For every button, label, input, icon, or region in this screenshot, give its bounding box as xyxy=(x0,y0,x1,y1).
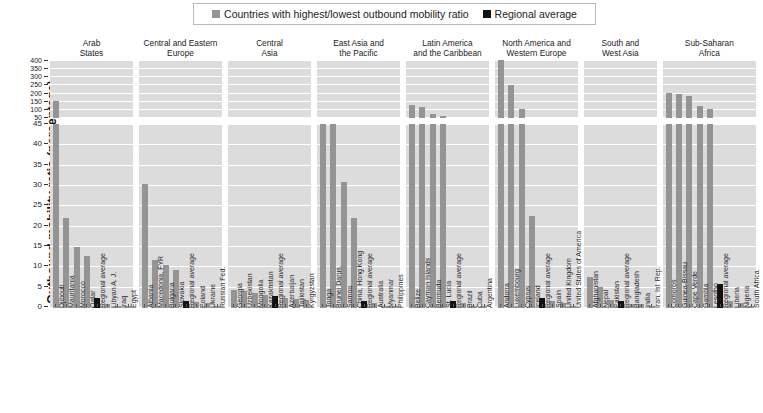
y-tick-label: 250 xyxy=(20,81,48,88)
bar-slot xyxy=(349,60,359,118)
bar-country xyxy=(686,96,692,118)
bar-country xyxy=(707,109,713,118)
bar-country xyxy=(498,124,504,308)
x-axis-label: Belize xyxy=(414,289,421,308)
bar-slot xyxy=(123,124,133,308)
bar-slot xyxy=(301,60,311,118)
bar-slot xyxy=(735,60,745,118)
x-axis-tick xyxy=(730,304,731,307)
x-axis-label: St. Lucia xyxy=(445,281,452,308)
bar-slot xyxy=(339,60,349,118)
y-tick-label: 150 xyxy=(20,98,48,105)
bar-slot xyxy=(92,60,102,118)
group-panel-top xyxy=(584,60,657,118)
bar-container xyxy=(495,60,578,118)
x-axis-labels: DjiboutiMauritaniaMoroccoQatarRegional a… xyxy=(50,308,756,408)
bar-slot xyxy=(51,124,61,308)
bar-container xyxy=(663,60,756,118)
bar-slot xyxy=(72,60,82,118)
x-axis-tick xyxy=(144,304,145,307)
x-axis-tick xyxy=(600,304,601,307)
x-axis-tick xyxy=(542,304,543,307)
x-axis-label: Australia xyxy=(377,281,384,308)
x-axis-tick xyxy=(264,304,265,307)
x-axis-label: Afghanistan xyxy=(592,271,599,308)
y-tick-label: 10 xyxy=(20,262,48,270)
bar-country xyxy=(53,101,59,118)
x-axis-label: Iceland xyxy=(534,285,541,308)
x-axis-tick xyxy=(610,304,611,307)
x-axis-tick xyxy=(651,304,652,307)
x-axis-label: Nepal xyxy=(602,290,609,308)
x-axis-label: Poland xyxy=(199,286,206,308)
bar-slot xyxy=(202,124,212,308)
x-axis-tick xyxy=(562,304,563,307)
x-axis-tick xyxy=(500,304,501,307)
x-axis-label: Bermuda xyxy=(435,280,442,308)
x-axis-label: Ukraine xyxy=(209,284,216,308)
x-axis-tick xyxy=(422,304,423,307)
x-axis-label: Brazil xyxy=(466,290,473,308)
bar-slot xyxy=(369,60,379,118)
x-axis-label: Nigeria xyxy=(743,286,750,308)
x-axis-label: Cuba xyxy=(476,291,483,308)
y-tick-label: 0 xyxy=(20,303,48,311)
x-axis-label: United States of America xyxy=(575,231,582,308)
bar-slot xyxy=(280,60,290,118)
bar-slot xyxy=(469,60,479,118)
x-axis-label: Samoa xyxy=(346,286,353,308)
bar-slot xyxy=(527,60,537,118)
y-tick-label: 40 xyxy=(20,140,48,148)
x-axis-tick xyxy=(128,304,129,307)
x-axis-label: Cape Verde xyxy=(691,271,698,308)
x-axis-label: Regional average xyxy=(544,253,551,308)
bar-slot xyxy=(684,60,694,118)
x-axis-tick xyxy=(217,304,218,307)
group-title-line: Latin America xyxy=(406,38,489,48)
square-swatch-icon xyxy=(212,10,220,18)
group-panel-top xyxy=(228,60,311,118)
bar-country xyxy=(498,60,504,118)
bar-slot xyxy=(229,60,239,118)
x-axis-tick xyxy=(322,304,323,307)
bar-slot xyxy=(664,60,674,118)
bar-slot xyxy=(448,60,458,118)
group-panel-top xyxy=(317,60,400,118)
x-axis-label: Gambia xyxy=(702,283,709,308)
x-axis-tick xyxy=(740,304,741,307)
group-panel-top xyxy=(663,60,756,118)
x-axis-tick xyxy=(521,304,522,307)
x-axis-tick xyxy=(343,304,344,307)
bar-slot xyxy=(407,60,417,118)
bar-slot xyxy=(161,60,171,118)
group-title-line: Western Europe xyxy=(495,48,578,58)
bar-slot xyxy=(469,124,479,308)
bar-country xyxy=(676,94,682,118)
x-axis-label: Libyan A. J. xyxy=(110,272,117,308)
bar-container xyxy=(50,124,133,308)
bar-slot xyxy=(390,60,400,118)
x-axis-tick xyxy=(442,304,443,307)
y-tick-label: 35 xyxy=(20,161,48,169)
group-panel-bottom xyxy=(50,124,133,308)
bar-slot xyxy=(171,60,181,118)
x-axis-tick xyxy=(689,304,690,307)
x-axis-label: Morocco xyxy=(79,281,86,308)
y-tick-label: 400 xyxy=(20,57,48,64)
x-axis-label: Regional average xyxy=(99,253,106,308)
group-panel-top xyxy=(139,60,222,118)
x-axis-label: South Africa xyxy=(753,270,760,308)
bar-slot xyxy=(150,60,160,118)
x-axis-tick xyxy=(432,304,433,307)
group-title: Central and EasternEurope xyxy=(139,38,222,58)
bar-slot xyxy=(318,124,328,308)
x-axis-tick xyxy=(473,304,474,307)
bar-country xyxy=(419,107,425,118)
x-axis-tick xyxy=(463,304,464,307)
bar-slot xyxy=(547,60,557,118)
x-axis-label: Argentina xyxy=(486,278,493,308)
bar-slot xyxy=(202,60,212,118)
x-axis-tick xyxy=(66,304,67,307)
bar-slot xyxy=(725,60,735,118)
bar-slot xyxy=(407,124,417,308)
